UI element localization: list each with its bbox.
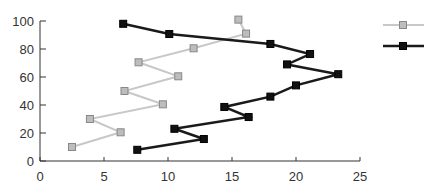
series-1 — [69, 16, 250, 150]
square-marker-icon — [307, 51, 314, 58]
square-marker-icon — [166, 31, 173, 38]
legend-entry-1 — [383, 22, 424, 29]
legend — [383, 22, 424, 50]
y-tick-label: 40 — [20, 98, 34, 113]
y-tick-label: 100 — [12, 14, 34, 29]
legend-entry-2 — [383, 43, 424, 50]
square-marker-icon — [86, 116, 93, 123]
square-marker-icon — [69, 144, 76, 151]
square-marker-icon — [267, 40, 274, 47]
square-marker-icon — [117, 129, 124, 136]
legend-square-marker-icon — [400, 22, 407, 29]
y-tick-label: 20 — [20, 126, 34, 141]
square-marker-icon — [171, 125, 178, 132]
square-marker-icon — [121, 88, 128, 95]
square-marker-icon — [235, 16, 242, 23]
line-chart: 0510152025020406080100 — [0, 0, 441, 190]
series-layer — [69, 16, 342, 153]
square-marker-icon — [293, 82, 300, 89]
y-tick-label: 0 — [27, 154, 34, 169]
y-tick-label: 60 — [20, 70, 34, 85]
square-marker-icon — [245, 114, 252, 121]
square-marker-icon — [159, 101, 166, 108]
square-marker-icon — [120, 20, 127, 27]
x-tick-label: 25 — [353, 169, 367, 184]
square-marker-icon — [200, 136, 207, 143]
legend-square-marker-icon — [400, 43, 407, 50]
axes: 0510152025020406080100 — [12, 14, 367, 184]
x-tick-label: 0 — [36, 169, 43, 184]
x-tick-label: 20 — [289, 169, 303, 184]
x-tick-label: 5 — [100, 169, 107, 184]
square-marker-icon — [221, 103, 228, 110]
square-marker-icon — [134, 146, 141, 153]
square-marker-icon — [335, 71, 342, 78]
y-tick-label: 80 — [20, 42, 34, 57]
square-marker-icon — [190, 45, 197, 52]
square-marker-icon — [267, 93, 274, 100]
x-tick-label: 15 — [225, 169, 239, 184]
series-2 — [120, 20, 342, 153]
series-line — [123, 24, 338, 150]
square-marker-icon — [284, 61, 291, 68]
square-marker-icon — [135, 59, 142, 66]
square-marker-icon — [243, 30, 250, 37]
x-tick-label: 10 — [161, 169, 175, 184]
square-marker-icon — [175, 73, 182, 80]
